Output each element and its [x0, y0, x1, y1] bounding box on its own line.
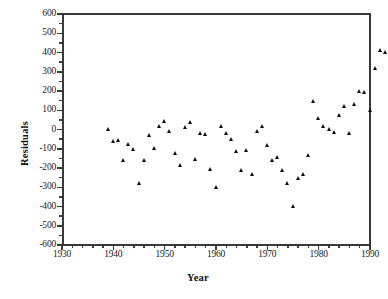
- data-point: [296, 176, 300, 180]
- data-point: [301, 172, 305, 176]
- plot-frame-top: [62, 13, 371, 15]
- data-point: [373, 66, 377, 70]
- y-tick: [57, 52, 62, 54]
- y-tick: [57, 13, 62, 15]
- data-point: [224, 131, 228, 135]
- y-tick: [57, 33, 62, 35]
- y-tick: [57, 148, 62, 150]
- x-tick-minor: [133, 245, 135, 248]
- data-point: [162, 119, 166, 123]
- data-point: [137, 181, 141, 185]
- x-axis-title: Year: [168, 272, 228, 283]
- data-point: [239, 168, 243, 172]
- data-point: [244, 148, 248, 152]
- x-tick-minor: [174, 245, 176, 248]
- data-point: [178, 163, 182, 167]
- x-tick-label: 1970: [249, 250, 285, 260]
- x-tick-minor: [349, 245, 351, 248]
- y-tick-minor: [59, 215, 62, 217]
- data-point: [291, 204, 295, 208]
- y-tick-label: 300: [22, 67, 56, 77]
- data-point: [270, 158, 274, 162]
- x-tick-minor: [123, 245, 125, 248]
- data-point: [321, 124, 325, 128]
- data-point: [378, 48, 382, 52]
- x-tick-minor: [143, 245, 145, 248]
- data-point: [229, 137, 233, 141]
- x-tick-label: 1950: [147, 250, 183, 260]
- x-tick-minor: [246, 245, 248, 248]
- data-point: [173, 151, 177, 155]
- y-tick-label: 400: [22, 48, 56, 58]
- data-point: [332, 130, 336, 134]
- data-point: [208, 167, 212, 171]
- data-point: [275, 155, 279, 159]
- x-tick-label: 1980: [301, 250, 337, 260]
- y-tick: [57, 187, 62, 189]
- y-tick-minor: [59, 119, 62, 121]
- y-tick-minor: [59, 100, 62, 102]
- data-point: [193, 157, 197, 161]
- y-tick-label: 500: [22, 28, 56, 38]
- data-point: [250, 172, 254, 176]
- data-point: [383, 50, 387, 54]
- x-tick-minor: [102, 245, 104, 248]
- x-tick-minor: [297, 245, 299, 248]
- x-tick-minor: [205, 245, 207, 248]
- x-tick-minor: [195, 245, 197, 248]
- data-point: [357, 89, 361, 93]
- data-point: [342, 104, 346, 108]
- data-point: [368, 108, 372, 112]
- data-point: [183, 125, 187, 129]
- data-point: [188, 120, 192, 124]
- x-tick-minor: [308, 245, 310, 248]
- x-tick-label: 1930: [44, 250, 80, 260]
- y-tick-label: 600: [22, 9, 56, 19]
- data-point: [260, 124, 264, 128]
- y-tick-minor: [59, 196, 62, 198]
- x-tick-minor: [154, 245, 156, 248]
- y-tick-minor: [59, 42, 62, 44]
- data-point: [285, 181, 289, 185]
- data-point: [116, 138, 120, 142]
- data-point: [147, 133, 151, 137]
- x-tick-label: 1960: [198, 250, 234, 260]
- data-point: [265, 143, 269, 147]
- x-tick-minor: [359, 245, 361, 248]
- y-axis-line: [62, 13, 64, 246]
- y-tick-minor: [59, 177, 62, 179]
- y-tick-label: 200: [22, 86, 56, 96]
- data-point: [106, 127, 110, 131]
- data-point: [198, 131, 202, 135]
- residuals-scatter-plot: 6005004003002001000-100-200-300-400-500-…: [0, 0, 388, 299]
- y-tick-minor: [59, 158, 62, 160]
- data-point: [362, 90, 366, 94]
- data-point: [142, 158, 146, 162]
- x-tick-minor: [338, 245, 340, 248]
- data-point: [219, 124, 223, 128]
- data-point: [111, 139, 115, 143]
- x-tick-minor: [236, 245, 238, 248]
- y-tick-label: -500: [22, 221, 56, 231]
- y-tick-minor: [59, 23, 62, 25]
- data-point: [352, 102, 356, 106]
- y-tick-minor: [59, 235, 62, 237]
- data-point: [126, 142, 130, 146]
- data-point: [167, 129, 171, 133]
- plot-frame-right: [369, 13, 371, 246]
- data-point: [255, 129, 259, 133]
- y-tick: [57, 71, 62, 73]
- y-axis-title: Residuals: [19, 99, 30, 189]
- x-tick-label: 1940: [95, 250, 131, 260]
- data-point: [347, 131, 351, 135]
- y-tick-minor: [59, 61, 62, 63]
- x-tick-label: 1990: [352, 250, 388, 260]
- data-point: [280, 168, 284, 172]
- data-point: [214, 185, 218, 189]
- y-tick-minor: [59, 138, 62, 140]
- y-tick: [57, 206, 62, 208]
- x-tick-minor: [277, 245, 279, 248]
- y-tick: [57, 167, 62, 169]
- data-point: [306, 153, 310, 157]
- data-point: [152, 146, 156, 150]
